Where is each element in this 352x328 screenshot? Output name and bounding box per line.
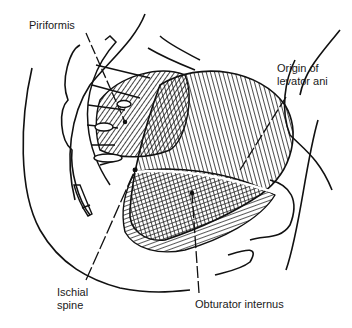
label-ischial-line2: spine xyxy=(57,299,88,312)
label-origin-line2: levator ani xyxy=(277,75,328,88)
label-obturator-internus: Obturator internus xyxy=(195,298,284,311)
label-ischial-line1: Ischial xyxy=(57,286,88,299)
label-origin-levator-ani: Origin of levator ani xyxy=(277,62,328,88)
label-origin-line1: Origin of xyxy=(277,62,328,75)
label-ischial-spine: Ischial spine xyxy=(57,286,88,312)
anatomical-illustration xyxy=(0,0,352,328)
label-piriformis: Piriformis xyxy=(29,19,75,32)
